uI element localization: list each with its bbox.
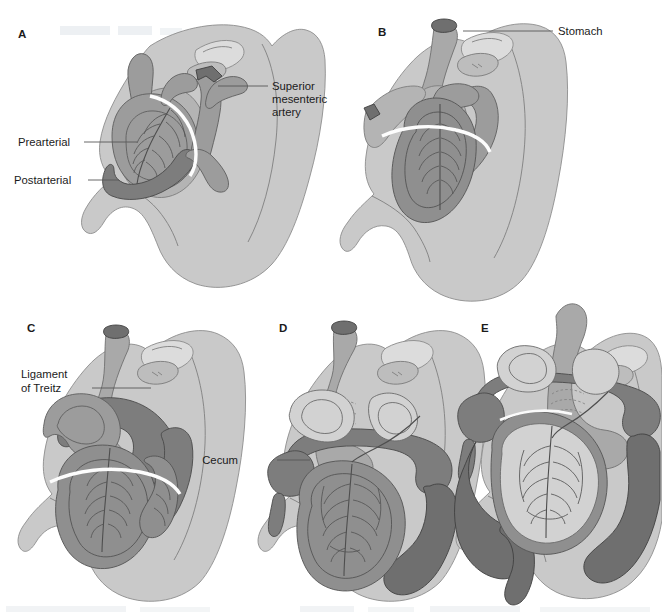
figure-root: A Superior mesenteric artery Prearterial…	[0, 0, 662, 615]
sma-line-1: Superior	[272, 80, 315, 92]
panel-letter-E: E	[481, 322, 489, 334]
panel-D-esophagus-cut	[332, 321, 357, 334]
label-prearterial: Prearterial	[18, 136, 70, 148]
panel-B-esophagus-cut	[432, 19, 457, 32]
panel-letter-B: B	[378, 26, 387, 38]
panel-letter-A: A	[18, 28, 27, 40]
treitz-line-2: of Treitz	[21, 382, 62, 394]
panel-C-esophagus-cut	[104, 325, 129, 338]
panel-letter-D: D	[279, 322, 288, 334]
anatomy-illustration: A Superior mesenteric artery Prearterial…	[0, 0, 662, 615]
treitz-line-1: Ligament	[21, 368, 68, 380]
sma-line-3: artery	[272, 106, 301, 118]
label-cecum: Cecum	[202, 454, 238, 466]
panel-letter-C: C	[27, 322, 36, 334]
label-postarterial: Postarterial	[14, 174, 71, 186]
label-stomach: Stomach	[558, 25, 603, 37]
panel-E-upper-bowel-loop-left	[497, 346, 556, 392]
panel-E-upper-bowel-loop-right	[572, 349, 619, 394]
sma-line-2: mesenteric	[272, 93, 328, 105]
